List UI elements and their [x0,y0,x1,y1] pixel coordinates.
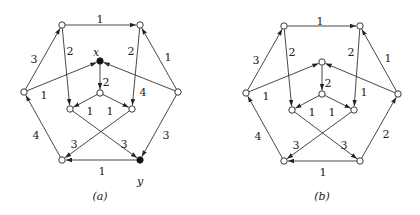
caption-b: (b) [314,190,330,203]
edge-weight-label: 4 [255,130,262,143]
edge-c-to-il [295,96,319,109]
edge-weight-label: 2 [128,45,135,58]
node-r [395,91,401,97]
node-tr [137,22,143,28]
edge-weight-label: 3 [71,138,78,151]
node-br [357,158,363,164]
node-filled-y [137,157,143,163]
edge-weight-label: 2 [325,77,332,90]
edge-il-to-br [295,112,357,159]
node-ir [351,107,357,113]
edge-weight-label: 3 [253,54,260,67]
edge-weight-label: 1 [263,90,270,103]
edge-l-to-x [27,62,97,90]
edge-br-to-r [362,97,397,158]
node-l [243,90,249,96]
edge-weight-label: 2 [103,76,110,89]
node-l [21,89,27,95]
edge-weight-label: 2 [289,46,296,59]
node-tl [59,22,65,28]
node-bl [281,158,287,164]
edge-bl-to-l [26,95,61,157]
node-tr [357,23,363,29]
edge-weight-label: 2 [67,45,74,58]
node-il [67,106,73,112]
node-c [319,91,325,97]
edge-weight-label: 1 [99,165,106,178]
edge-weight-label: 4 [33,129,40,142]
edge-weight-label: 1 [329,106,336,119]
edge-weight-label: 1 [41,89,48,102]
edge-l-to-t [249,63,319,91]
edge-weight-label: 1 [165,51,172,64]
edge-weight-label: 1 [97,13,104,26]
edge-weight-label: 2 [348,46,355,59]
edge-weight-label: 1 [317,15,324,28]
edge-weight-label: 3 [163,129,170,142]
node-c [97,90,103,96]
edge-tl-to-il [284,29,291,106]
edge-weight-label: 1 [385,52,392,65]
edge-weight-label: 1 [87,105,94,118]
edge-weight-label: 3 [293,139,300,152]
edge-weight-label: 3 [121,138,128,151]
edge-weight-label: 3 [341,139,348,152]
node-label-x: x [93,46,100,59]
edge-weight-label: 1 [320,166,327,179]
edge-weight-label: 3 [31,53,38,66]
graph-a: 131221421143331xy(a) [21,13,181,203]
edge-bl-to-l [248,96,283,158]
edge-tl-to-il [62,28,69,105]
graph-figure: 131221421143331xy(a)131221121142331(b) [0,0,420,215]
edge-tr-to-ir [354,29,360,106]
node-r [175,89,181,95]
node-il [289,107,295,113]
node-t [319,59,325,65]
node-label-y: y [136,175,144,188]
node-ir [129,106,135,112]
edge-weight-label: 2 [383,128,390,141]
node-tl [281,23,287,29]
edge-weight-label: 1 [361,86,368,99]
edge-r-to-y [142,95,177,157]
edge-weight-label: 4 [140,86,147,99]
caption-a: (a) [92,190,107,203]
edge-weight-label: 1 [309,106,316,119]
graph-b: 131221121142331(b) [243,15,401,203]
node-bl [59,157,65,163]
edge-weight-label: 1 [107,105,114,118]
edge-c-to-il [73,95,97,108]
